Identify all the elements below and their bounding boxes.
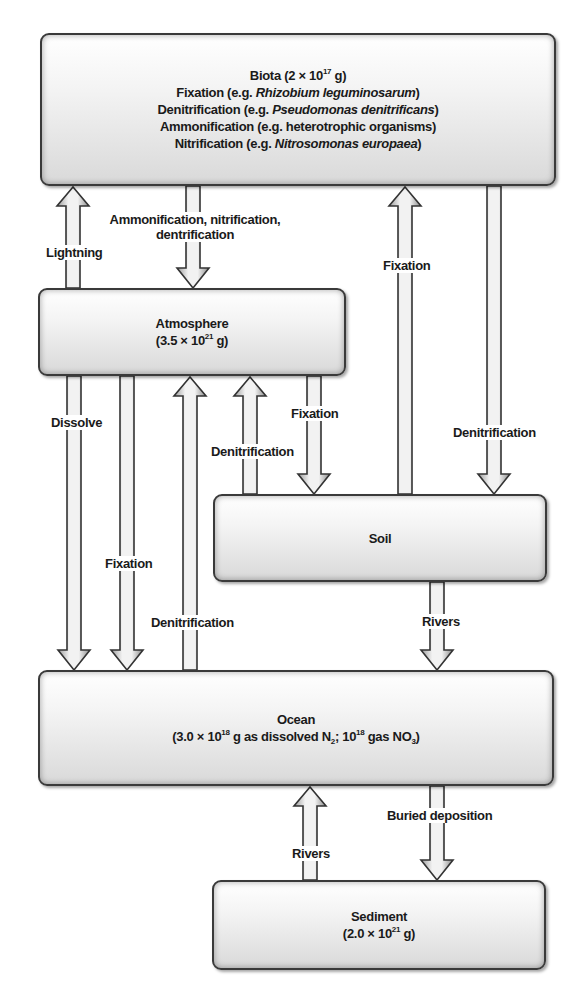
soil-box: Soil [213, 494, 547, 582]
arrow-fixation-atm-ocean-down [111, 376, 143, 670]
arrow-fixation-soil-biota-up [389, 187, 421, 494]
atmosphere-box: Atmosphere (3.5 × 1021 g) [38, 288, 346, 376]
label-ammonification: Ammonification, nitrification, dentrific… [108, 212, 282, 242]
ocean-box: Ocean (3.0 × 1018 g as dissolved N2; 101… [38, 670, 554, 786]
sediment-mass: (2.0 × 1021 g) [343, 925, 415, 942]
sediment-box: Sediment (2.0 × 1021 g) [212, 880, 546, 970]
label-rivers-soil-ocean: Rivers [421, 614, 461, 629]
label-buried-deposition: Buried deposition [386, 808, 493, 823]
label-fixation-atm-ocean: Fixation [104, 556, 153, 571]
label-denitrification-ocean-atm: Denitrification [150, 615, 235, 630]
label-lightning: Lightning [45, 245, 104, 260]
sediment-name: Sediment [351, 908, 407, 925]
label-fixation-soil-biota: Fixation [382, 258, 431, 273]
soil-name: Soil [369, 530, 392, 547]
arrow-rivers-sediment-ocean-up [294, 787, 326, 880]
ocean-name: Ocean [277, 711, 315, 728]
arrow-fixation-atm-soil-down [298, 376, 330, 494]
label-denitrification-soil-atm: Denitrification [210, 444, 295, 459]
label-rivers-sediment-ocean: Rivers [291, 846, 331, 861]
biota-denitrification-line: Denitrification (e.g. Pseudomonas denitr… [157, 101, 438, 118]
biota-box: Biota (2 × 1017 g) Fixation (e.g. Rhizob… [40, 33, 556, 186]
arrow-denitrification-biota-soil-down [478, 186, 510, 494]
arrow-denitrification-soil-atm-up [234, 377, 266, 494]
biota-fixation-line: Fixation (e.g. Rhizobium leguminosarum) [176, 84, 419, 101]
arrow-lightning-up [57, 187, 89, 288]
atmosphere-name: Atmosphere [156, 315, 229, 332]
biota-nitrification-line: Nitrification (e.g. Nitrosomonas europae… [175, 135, 422, 152]
label-fixation-atm-soil: Fixation [290, 406, 339, 421]
ocean-mass: (3.0 × 1018 g as dissolved N2; 1018 gas … [172, 728, 419, 745]
biota-ammonification-line: Ammonification (e.g. heterotrophic organ… [160, 118, 436, 135]
atmosphere-mass: (3.5 × 1021 g) [156, 332, 228, 349]
label-dissolve: Dissolve [50, 415, 103, 430]
biota-title: Biota (2 × 1017 g) [250, 67, 346, 84]
arrow-buried-deposition-down [421, 786, 453, 880]
label-denitrification-biota-soil: Denitrification [452, 425, 537, 440]
